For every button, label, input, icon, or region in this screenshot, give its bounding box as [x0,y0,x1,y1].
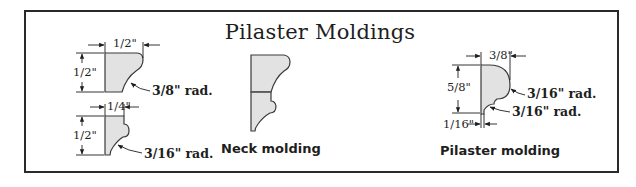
pilaster-molding-profile [481,65,510,114]
bottom-molding-radius-label: 3/16" rad. [144,148,213,161]
bottom-molding-height-label: 1/2" [73,130,97,142]
bottom-molding-width-label: 1/4" [107,101,131,113]
pilaster-height-label: 5/8" [447,82,471,94]
neck-molding-profile [251,55,290,131]
top-molding-profile [105,53,143,92]
pilaster-upper-radius-label: 3/16" rad. [527,88,596,101]
neck-molding-caption: Neck molding [221,141,321,156]
top-molding-height-label: 1/2" [73,67,97,79]
pilaster-molding-caption: Pilaster molding [440,143,560,158]
pilaster-width-label: 3/8" [489,50,513,62]
pilaster-offset-label: 1/16" [443,119,474,131]
top-molding-radius-label: 3/8" rad. [152,85,213,98]
pilaster-lower-radius-label: 3/16" rad. [512,106,581,119]
top-molding-width-label: 1/2" [113,38,137,50]
